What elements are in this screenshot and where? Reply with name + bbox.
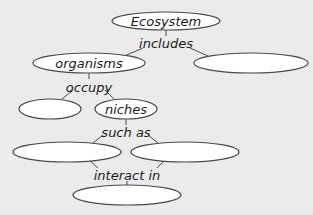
linking-phrase-occupy: occupy xyxy=(66,80,113,95)
node-blank-right-low[interactable] xyxy=(131,142,239,162)
blank-answer-ellipse[interactable] xyxy=(73,185,181,205)
node-blank-left-low[interactable] xyxy=(13,142,121,162)
blank-answer-ellipse[interactable] xyxy=(194,53,308,73)
blank-answer-ellipse[interactable] xyxy=(131,142,239,162)
link-left-interactin xyxy=(90,161,98,168)
label-ecosystem: Ecosystem xyxy=(131,14,201,29)
blank-answer-ellipse[interactable] xyxy=(19,99,81,119)
link-right-interactin xyxy=(157,161,164,168)
blank-answer-ellipse[interactable] xyxy=(13,142,121,162)
linking-phrase-interact-in: interact in xyxy=(94,168,161,183)
label-organisms: organisms xyxy=(55,56,123,71)
node-ecosystem: Ecosystem xyxy=(112,12,220,30)
label-niches: niches xyxy=(105,102,147,117)
node-niches: niches xyxy=(95,99,157,119)
linking-phrase-includes: includes xyxy=(139,36,193,51)
linking-phrase-such-as: such as xyxy=(101,125,150,140)
node-blank-bottom[interactable] xyxy=(73,185,181,205)
node-blank-right-top[interactable] xyxy=(194,53,308,73)
node-organisms: organisms xyxy=(33,53,145,73)
concept-map: Ecosystem organisms niches includes occu… xyxy=(0,0,313,215)
node-blank-left-mid[interactable] xyxy=(19,99,81,119)
